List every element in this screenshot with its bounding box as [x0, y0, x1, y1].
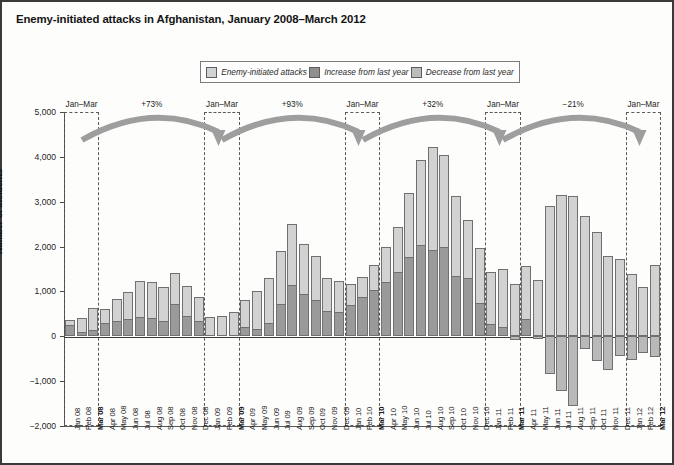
x-tick-label: Apr 11	[529, 409, 538, 430]
bar-increase	[194, 321, 204, 336]
bar-increase	[147, 318, 157, 336]
bar-increase	[158, 321, 168, 337]
bar-decrease	[568, 336, 578, 406]
bar-increase	[404, 257, 414, 336]
y-axis-label: Number of incidents	[0, 169, 4, 254]
bar-increase	[521, 319, 531, 336]
bar-increase	[334, 312, 344, 336]
bar-increase	[252, 329, 262, 337]
x-tick-label: Apr 10	[389, 408, 398, 430]
period-box	[204, 112, 239, 426]
x-tick-label: Sep 09	[307, 407, 316, 430]
bar-total	[205, 317, 215, 336]
legend-item-total: Enemy-initiated attacks	[206, 67, 307, 78]
period-label: Jan–Mar	[477, 100, 529, 109]
bar-total	[545, 206, 555, 336]
bar-increase	[322, 311, 332, 336]
period-label: Jan–Mar	[196, 100, 248, 109]
y-tick-label: 3,000	[14, 197, 56, 207]
bar-increase	[346, 305, 356, 336]
bar-increase	[100, 323, 110, 336]
bar-increase	[65, 325, 75, 337]
bar-total	[498, 269, 508, 336]
bar-decrease	[592, 336, 602, 361]
x-tick-label: Jun 10	[412, 408, 421, 430]
bar-increase	[170, 304, 180, 337]
bar-decrease	[638, 336, 648, 353]
bar-total	[533, 280, 543, 336]
x-tick-label: Oct 08	[178, 408, 187, 430]
bar-increase	[393, 272, 403, 336]
x-tick-label: Oct 09	[318, 408, 327, 430]
bar-increase	[77, 332, 87, 336]
y-tick-label: 2,000	[14, 242, 56, 252]
legend-swatch-increase-icon	[309, 67, 320, 78]
x-tick-label: Nov 09	[330, 407, 339, 430]
bar-increase	[486, 324, 496, 337]
y-tick-mark	[60, 381, 64, 382]
bar-total	[615, 259, 625, 336]
x-tick-label: Jun 09	[272, 408, 281, 430]
bar-decrease	[627, 336, 637, 359]
bar-total	[580, 216, 590, 337]
trend-arrow-icon	[70, 106, 234, 156]
page-title: Enemy-initiated attacks in Afghanistan, …	[16, 13, 366, 25]
x-tick-label: Mar 12	[658, 407, 667, 430]
x-tick-label: Jul 11	[564, 411, 573, 430]
x-tick-label: Jun 08	[131, 408, 140, 430]
period-label: Jan–Mar	[617, 100, 669, 109]
x-tick-label: Mar 11	[517, 407, 526, 430]
percent-change-label: −21%	[551, 100, 595, 109]
x-tick-label: Jul 09	[283, 410, 292, 430]
legend-label-increase: Increase from last year	[324, 67, 408, 77]
x-tick-label: Nov 11	[611, 407, 620, 430]
bar-decrease	[580, 336, 590, 349]
bar-increase	[299, 294, 309, 337]
x-tick-label: Apr 09	[248, 408, 257, 430]
x-tick-label: May 11	[541, 406, 550, 430]
y-axis-line	[64, 112, 65, 426]
bar-total	[217, 316, 227, 336]
bar-increase	[311, 300, 321, 336]
bar-increase	[416, 245, 426, 336]
y-tick-label: 1,000	[14, 286, 56, 296]
percent-change-label: +32%	[411, 100, 455, 109]
y-tick-label: 4,000	[14, 152, 56, 162]
x-tick-label: Sep 08	[166, 407, 175, 430]
x-tick-label: May 10	[400, 406, 409, 430]
bar-increase	[451, 276, 461, 336]
period-label: Jan–Mar	[56, 100, 108, 109]
x-tick-label: Feb 11	[506, 408, 515, 430]
bar-increase	[463, 278, 473, 336]
x-tick-label: Oct 11	[599, 409, 608, 430]
bar-total	[229, 312, 239, 336]
x-tick-label: Nov 08	[190, 407, 199, 430]
period-label: Jan–Mar	[337, 100, 389, 109]
bar-increase	[357, 297, 367, 336]
legend-swatch-decrease-icon	[411, 67, 422, 78]
x-tick-label: Dec 08	[201, 407, 210, 430]
x-tick-label: Aug 11	[576, 407, 585, 430]
x-tick-label: Aug 09	[295, 407, 304, 430]
x-tick-label: Jan 12	[635, 408, 644, 430]
bar-increase	[88, 330, 98, 336]
bar-increase	[439, 247, 449, 336]
x-tick-label: Jul 08	[143, 410, 152, 430]
x-tick-label: Jan 08	[73, 408, 82, 430]
chart-legend: Enemy-initiated attacks Increase from la…	[200, 61, 520, 83]
y-tick-label: −2,000	[14, 421, 56, 431]
x-tick-label: Apr 08	[108, 408, 117, 430]
trend-arrow-icon	[210, 106, 374, 156]
x-tick-label: Aug 10	[436, 407, 445, 430]
percent-change-label: +93%	[270, 100, 314, 109]
x-tick-label: Nov 10	[471, 407, 480, 430]
bar-decrease	[545, 336, 555, 373]
y-tick-label: 0	[14, 331, 56, 341]
bar-decrease	[603, 336, 613, 370]
legend-swatch-total-icon	[206, 67, 217, 78]
bar-increase	[276, 304, 286, 336]
bar-decrease	[510, 336, 520, 340]
x-tick-label: Dec 09	[342, 407, 351, 430]
bar-total	[638, 287, 648, 336]
bar-increase	[182, 316, 192, 336]
